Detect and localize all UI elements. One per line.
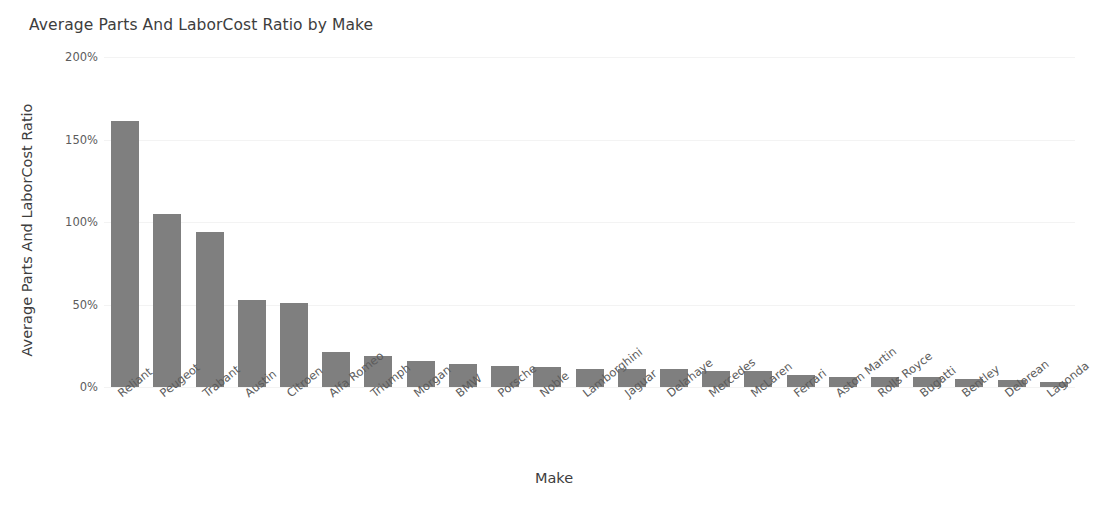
y-axis-tick-label: 100% — [65, 215, 98, 229]
y-axis-title: Average Parts And LaborCost Ratio — [19, 85, 35, 375]
x-axis-tick-labels: ReliantPeugeotTrabantAustinCitroenAlfa R… — [104, 389, 1075, 459]
y-axis-tick-label: 0% — [80, 380, 98, 394]
y-axis-tick-label: 50% — [72, 298, 98, 312]
x-axis-title: Make — [0, 470, 1108, 486]
y-axis-tick-label: 200% — [65, 50, 98, 64]
bars-layer — [104, 57, 1075, 387]
bar[interactable] — [111, 121, 139, 387]
bar[interactable] — [196, 232, 224, 387]
y-axis-tick-label: 150% — [65, 133, 98, 147]
chart-title: Average Parts And LaborCost Ratio by Mak… — [29, 16, 373, 34]
bar[interactable] — [153, 214, 181, 387]
plot-area — [104, 57, 1075, 387]
y-axis-tick-labels: 200%150%100%50%0% — [52, 57, 98, 387]
bar-chart: Average Parts And LaborCost Ratio by Mak… — [0, 0, 1108, 510]
